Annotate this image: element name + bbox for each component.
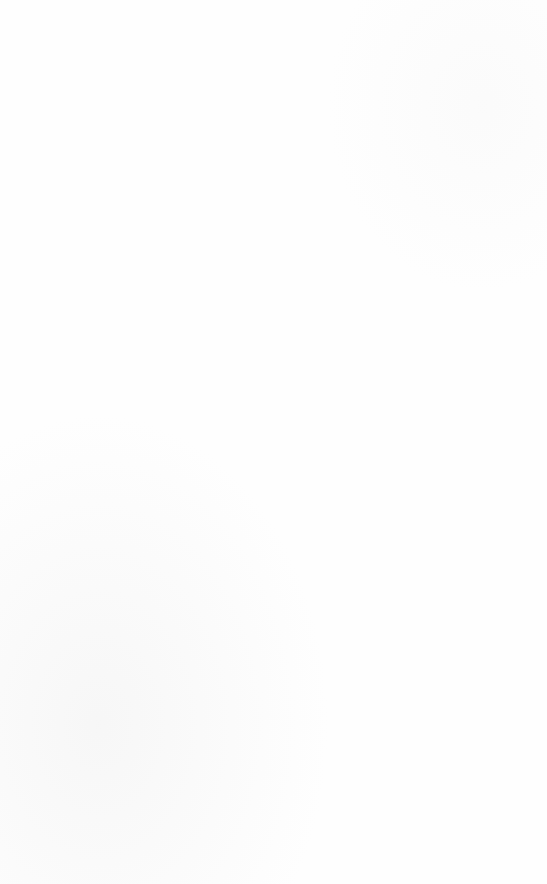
terminal-blob-head [255,712,258,720]
terminal-speck-above [256,704,257,708]
stroke-group-terminus [255,704,258,752]
scanned-page-canvas [0,0,547,884]
isolated-ink-specks [255,468,261,708]
lower-broken-dashes-path [255,468,260,700]
ink-stroke-artwork [0,0,547,884]
stroke-group-dashes [254,468,261,708]
